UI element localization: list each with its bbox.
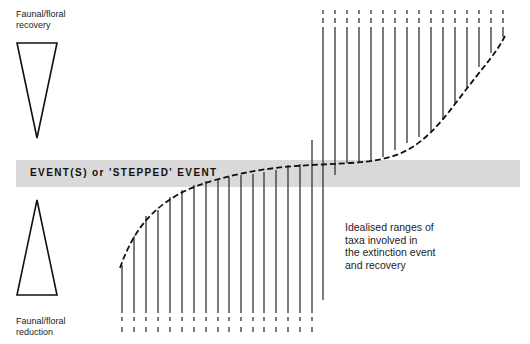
ranges-caption-line: Idealised ranges of (345, 221, 435, 234)
ranges-caption-line: taxa involved in (345, 234, 435, 247)
recovery-triangle-icon (17, 43, 57, 138)
reduction-label-line: reduction (16, 327, 66, 338)
recovery-label-line: recovery (16, 20, 66, 31)
recovery-label: Faunal/floral recovery (16, 9, 66, 31)
reduction-label: Faunal/floral reduction (16, 316, 66, 338)
lower-taxa-ranges (122, 140, 312, 332)
ranges-caption-line: the extinction event (345, 246, 435, 259)
reduction-label-line: Faunal/floral (16, 316, 66, 327)
extinction-diagram (0, 0, 530, 344)
reduction-triangle-icon (17, 200, 57, 295)
ranges-caption-line: and recovery (345, 259, 435, 272)
recovery-label-line: Faunal/floral (16, 9, 66, 20)
ranges-caption: Idealised ranges of taxa involved in the… (345, 221, 435, 271)
